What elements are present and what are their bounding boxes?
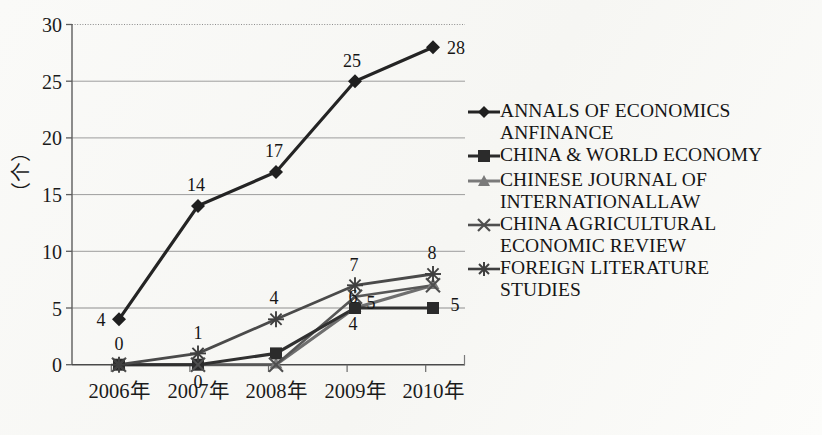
data-label-foreign-2010: 8 — [428, 243, 437, 263]
data-label-annals-2008: 17 — [265, 141, 283, 161]
legend-item-foreign-literature[interactable]: FOREIGN LITERATURE STUDIES — [468, 257, 820, 300]
marker-square — [427, 302, 439, 314]
marker-asterisk-star — [190, 345, 206, 361]
data-label-annals-2007: 14 — [187, 175, 205, 195]
data-label-foreign-2009: 7 — [350, 255, 359, 275]
y-tick-label-20: 20 — [42, 127, 62, 149]
y-tick-label-0: 0 — [52, 354, 62, 376]
x-tick-label-2009: 2009年 — [325, 380, 386, 402]
data-label-annals-2006: 4 — [97, 310, 106, 330]
data-label-foreign-2007: 1 — [194, 323, 203, 343]
legend-label-annals: ANNALS OF ECONOMICS ANFINANCE — [500, 100, 731, 143]
data-label-foreign-2006: 0 — [115, 334, 124, 354]
marker-asterisk-star — [268, 311, 284, 327]
chart-legend: ANNALS OF ECONOMICS ANFINANCE CHINA & WO… — [468, 100, 820, 301]
legend-item-chinese-journal[interactable]: CHINESE JOURNAL OF INTERNATIONALLAW — [468, 169, 820, 212]
legend-item-annals[interactable]: ANNALS OF ECONOMICS ANFINANCE — [468, 100, 820, 143]
y-tick-label-15: 15 — [42, 184, 62, 206]
chart-figure: 30 25 20 15 10 5 0 （个） 2006年 2007年 2008年… — [0, 0, 822, 435]
data-label-annals-2009: 25 — [343, 51, 361, 71]
legend-label-foreign-literature: FOREIGN LITERATURE STUDIES — [500, 257, 709, 300]
x-tick-label-2010: 2010年 — [403, 380, 464, 402]
legend-marker-cross-star-icon — [468, 215, 500, 237]
x-tick-labels: 2006年 2007年 2008年 2009年 2010年 — [89, 380, 464, 402]
legend-marker-triangle-icon — [468, 171, 500, 193]
data-label-agri-2009: 6 — [349, 287, 358, 307]
data-label-cjil-2009: 5 — [367, 293, 376, 313]
series-line-annals — [119, 47, 433, 319]
x-tick-label-2008: 2008年 — [246, 380, 307, 402]
y-axis-title: （个） — [10, 142, 32, 202]
legend-marker-asterisk-star-icon — [468, 259, 500, 281]
legend-marker-square-icon — [468, 146, 500, 168]
data-label-cwe-2010: 5 — [451, 295, 460, 315]
y-tick-label-5: 5 — [52, 298, 62, 320]
legend-item-china-agricultural[interactable]: CHINA AGRICULTURAL ECONOMIC REVIEW — [468, 213, 820, 256]
y-tick-labels: 30 25 20 15 10 5 0 — [42, 14, 62, 376]
legend-marker-diamond-icon — [468, 102, 500, 124]
marker-diamond — [426, 40, 440, 54]
data-label-annals-2010: 28 — [447, 38, 465, 58]
marker-asterisk-star — [425, 266, 441, 282]
marker-square — [270, 347, 282, 359]
data-label-cwe-2007: 0 — [194, 372, 203, 392]
y-tick-label-30: 30 — [42, 14, 62, 36]
data-point-labels: 4 14 17 25 28 0 1 4 7 8 4 0 5 6 5 — [97, 38, 466, 392]
legend-label-china-agricultural: CHINA AGRICULTURAL ECONOMIC REVIEW — [500, 213, 716, 256]
gridlines — [72, 25, 465, 309]
y-tick-marks — [66, 25, 72, 365]
data-label-foreign-2008: 4 — [270, 288, 279, 308]
data-label-foreign-2009-low: 4 — [349, 314, 358, 334]
legend-label-chinese-journal: CHINESE JOURNAL OF INTERNATIONALLAW — [500, 169, 707, 212]
x-tick-label-2006: 2006年 — [89, 380, 150, 402]
markers-annals — [112, 40, 440, 326]
legend-item-china-world-economy[interactable]: CHINA & WORLD ECONOMY — [468, 144, 820, 168]
y-tick-label-10: 10 — [42, 241, 62, 263]
legend-label-china-world-economy: CHINA & WORLD ECONOMY — [500, 144, 762, 166]
y-tick-label-25: 25 — [42, 71, 62, 93]
